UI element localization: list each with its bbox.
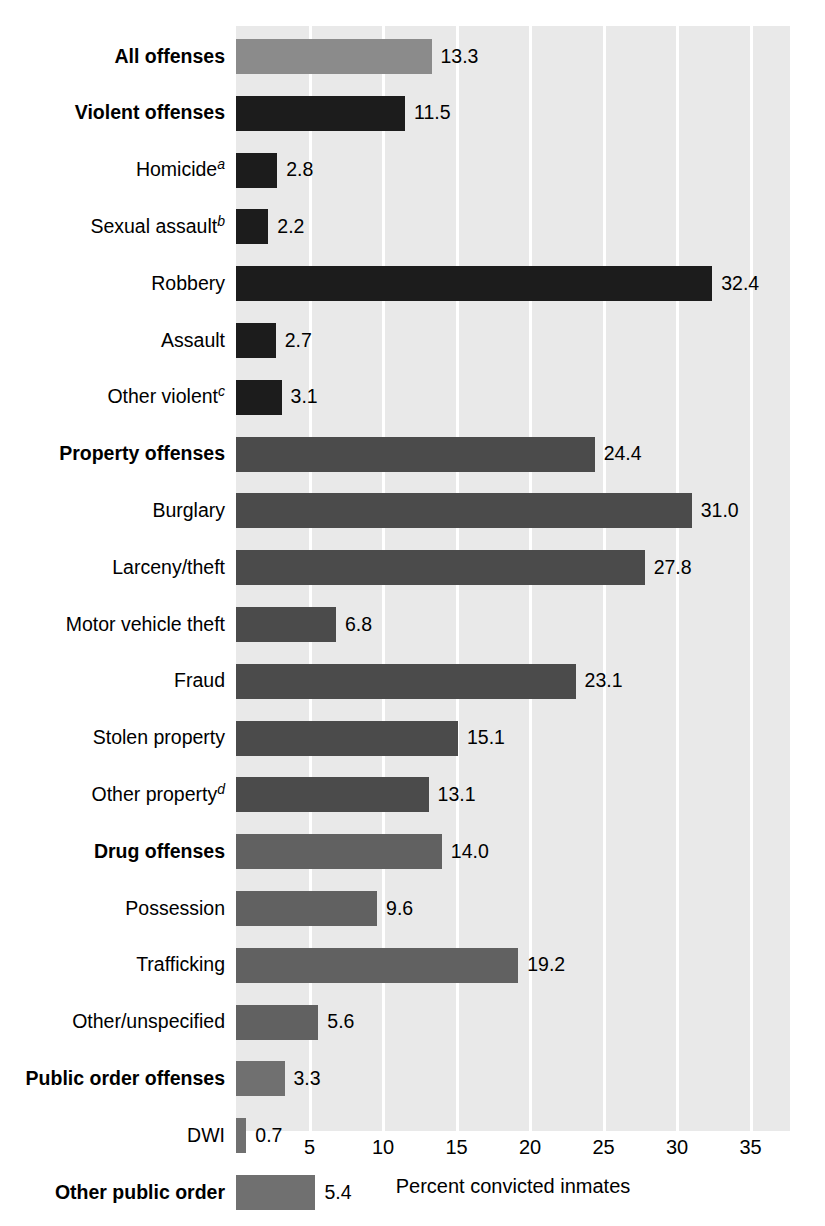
bar-row: Public order offenses3.3 (0, 1048, 825, 1105)
bar (236, 493, 692, 528)
bar-row: Other propertyd13.1 (0, 764, 825, 821)
footnote-marker: b (217, 212, 225, 228)
row-label: Fraud (0, 671, 225, 691)
x-tick-label: 35 (721, 1137, 781, 1157)
bar-rows-container: All offenses13.3Violent offenses11.5Homi… (0, 26, 825, 1131)
footnote-marker: a (217, 156, 225, 172)
bar-value-label: 5.6 (327, 1012, 354, 1032)
bar-row: Trafficking19.2 (0, 935, 825, 992)
bar-row: Fraud23.1 (0, 651, 825, 708)
row-label: All offenses (0, 47, 225, 67)
row-label: Other violentc (0, 387, 225, 407)
bar (236, 891, 377, 926)
row-label: Sexual assaultb (0, 217, 225, 237)
bar-row: Homicidea2.8 (0, 140, 825, 197)
bar (236, 948, 518, 983)
bar (236, 1005, 318, 1040)
bar (236, 153, 277, 188)
x-tick-label: 10 (353, 1137, 413, 1157)
bar-row: Drug offenses14.0 (0, 821, 825, 878)
bar-row: Robbery32.4 (0, 253, 825, 310)
bar-value-label: 2.8 (286, 160, 313, 180)
row-label: Property offenses (0, 444, 225, 464)
bar-row: Possession9.6 (0, 878, 825, 935)
footnote-marker: d (217, 780, 225, 796)
bar-value-label: 6.8 (345, 615, 372, 635)
bar (236, 380, 282, 415)
bar-value-label: 32.4 (721, 274, 759, 294)
row-label: Drug offenses (0, 842, 225, 862)
row-label: Public order offenses (0, 1069, 225, 1089)
bar (236, 550, 645, 585)
bar-row: Other violentc3.1 (0, 367, 825, 424)
bar (236, 266, 712, 301)
x-tick-label: 20 (500, 1137, 560, 1157)
row-label: Assault (0, 331, 225, 351)
bar-row: Sexual assaultb2.2 (0, 196, 825, 253)
bar-row: Burglary31.0 (0, 480, 825, 537)
bar-row: Larceny/theft27.8 (0, 537, 825, 594)
row-label: Robbery (0, 274, 225, 294)
row-label: Trafficking (0, 955, 225, 975)
bar-value-label: 31.0 (701, 501, 739, 521)
bar-value-label: 3.1 (291, 387, 318, 407)
bar-row: Stolen property15.1 (0, 708, 825, 765)
bar-value-label: 11.5 (414, 103, 451, 123)
bar-value-label: 13.1 (438, 785, 476, 805)
row-label: Stolen property (0, 728, 225, 748)
bar-value-label: 14.0 (451, 842, 489, 862)
footnote-marker: c (218, 383, 225, 399)
bar-value-label: 13.3 (441, 47, 479, 67)
bar-value-label: 2.7 (285, 331, 312, 351)
bar-value-label: 24.4 (604, 444, 642, 464)
bar (236, 39, 432, 74)
x-tick-label: 15 (427, 1137, 487, 1157)
bar (236, 607, 336, 642)
row-label: Possession (0, 899, 225, 919)
bar-value-label: 19.2 (527, 955, 565, 975)
row-label: Violent offenses (0, 103, 225, 123)
x-tick-label: 5 (280, 1137, 340, 1157)
bar (236, 721, 458, 756)
row-label: Other/unspecified (0, 1012, 225, 1032)
bar (236, 323, 276, 358)
bar-row: All offenses13.3 (0, 26, 825, 83)
x-axis: Percent convicted inmates 5101520253035 (0, 1131, 825, 1226)
bar (236, 664, 576, 699)
row-label: Burglary (0, 501, 225, 521)
bar-row: Assault2.7 (0, 310, 825, 367)
bar (236, 777, 429, 812)
x-tick-label: 30 (647, 1137, 707, 1157)
row-label: Motor vehicle theft (0, 615, 225, 635)
row-label: Other propertyd (0, 785, 225, 805)
row-label: Homicidea (0, 160, 225, 180)
bar-value-label: 23.1 (585, 671, 623, 691)
bar-row: Other/unspecified5.6 (0, 992, 825, 1049)
bar-value-label: 3.3 (294, 1069, 321, 1089)
x-axis-title: Percent convicted inmates (236, 1176, 790, 1196)
bar-row: Property offenses24.4 (0, 424, 825, 481)
bar-row: Motor vehicle theft6.8 (0, 594, 825, 651)
bar-row: Violent offenses11.5 (0, 83, 825, 140)
bar-value-label: 2.2 (277, 217, 304, 237)
bar-value-label: 9.6 (386, 899, 413, 919)
x-tick-label: 25 (574, 1137, 634, 1157)
bar (236, 437, 595, 472)
bar-value-label: 27.8 (654, 558, 692, 578)
row-label: Larceny/theft (0, 558, 225, 578)
bar (236, 209, 268, 244)
bar-chart-figure: All offenses13.3Violent offenses11.5Homi… (0, 0, 825, 1226)
bar (236, 834, 442, 869)
bar-value-label: 15.1 (467, 728, 505, 748)
bar (236, 1061, 285, 1096)
bar (236, 96, 405, 131)
